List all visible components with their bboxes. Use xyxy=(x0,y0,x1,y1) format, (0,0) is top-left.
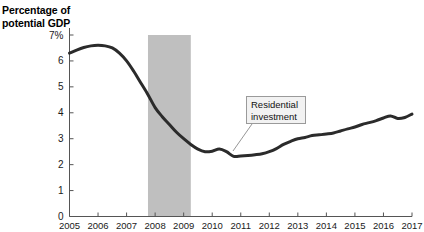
x-axis-tick-label: 2013 xyxy=(287,220,308,231)
y-axis-tick-label: 1 xyxy=(58,185,64,196)
chart-container: Percentage of potential GDP 01234567% 20… xyxy=(0,0,424,232)
x-axis-tick-label: 2015 xyxy=(344,220,365,231)
x-axis-tick-label: 2014 xyxy=(316,220,337,231)
x-axis-tick-label: 2008 xyxy=(145,220,166,231)
chart-plot-area: 01234567% 200520062007200820092010201120… xyxy=(0,0,424,232)
annotation-leader-line xyxy=(233,124,252,151)
y-axis-tick-label: 4 xyxy=(58,107,64,118)
y-axis-tick-label: 7% xyxy=(49,30,64,41)
x-axis-tick-label: 2017 xyxy=(401,220,422,231)
annotation-leader-line-group xyxy=(233,124,252,151)
x-axis-tick-label: 2016 xyxy=(373,220,394,231)
x-axis-tick-label: 2007 xyxy=(116,220,137,231)
y-axis-tick-label: 3 xyxy=(58,133,64,144)
x-axis-tick-label: 2006 xyxy=(87,220,108,231)
y-axis-tick-label: 5 xyxy=(58,81,64,92)
y-axis-tick-label: 2 xyxy=(58,159,64,170)
residential-investment-label: Residential investment xyxy=(246,96,306,124)
x-axis-tick-label: 2005 xyxy=(59,220,80,231)
x-axis-tick-label: 2009 xyxy=(173,220,194,231)
x-axis-tick-label: 2011 xyxy=(231,220,251,231)
y-axis-tick-label: 6 xyxy=(58,55,64,66)
x-axis-tick-label: 2010 xyxy=(202,220,223,231)
x-axis-tick-label: 2012 xyxy=(259,220,280,231)
x-axis-ticks-group: 2005200620072008200920102011201220132014… xyxy=(59,213,423,231)
